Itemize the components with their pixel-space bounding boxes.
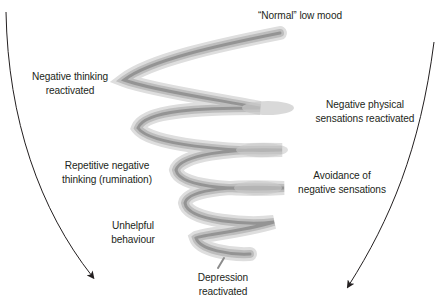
label-depression-reactivated: Depression reactivated xyxy=(188,270,258,298)
label-rumination: Repetitive negative thinking (rumination… xyxy=(59,158,156,186)
label-text: “Normal” low mood xyxy=(258,9,342,21)
label-avoidance: Avoidance of negative sensations xyxy=(294,168,391,196)
label-line: behaviour xyxy=(102,232,164,246)
label-unhelpful-behaviour: Unhelpful behaviour xyxy=(102,218,164,246)
right-arrow xyxy=(349,42,434,285)
downward-spiral-diagram: “Normal” low mood Negative thinking reac… xyxy=(0,0,435,298)
label-line: reactivated xyxy=(188,284,258,298)
label-line: reactivated xyxy=(17,83,123,97)
label-negative-thinking: Negative thinking reactivated xyxy=(17,69,123,97)
spiral-graphic xyxy=(0,0,435,298)
label-negative-physical: Negative physical sensations reactivated xyxy=(308,97,422,125)
label-line: Repetitive negative xyxy=(59,158,156,172)
label-line: sensations reactivated xyxy=(308,111,422,125)
label-line: Unhelpful xyxy=(102,218,164,232)
label-line: Negative physical xyxy=(308,97,422,111)
label-line: Negative thinking xyxy=(17,69,123,83)
label-normal-low-mood: “Normal” low mood xyxy=(234,8,366,22)
label-line: thinking (rumination) xyxy=(59,172,156,186)
label-line: Depression xyxy=(188,270,258,284)
label-line: Avoidance of xyxy=(294,168,391,182)
label-line: negative sensations xyxy=(294,182,391,196)
left-arrow xyxy=(6,12,92,276)
